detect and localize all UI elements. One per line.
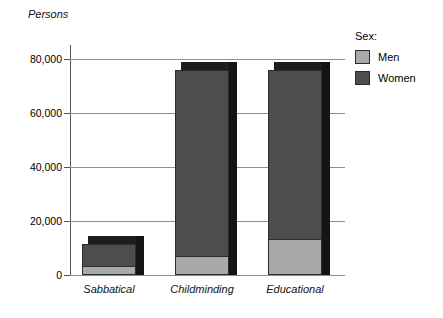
bar-top-face — [88, 236, 142, 244]
bar-childminding[interactable] — [175, 70, 229, 275]
legend-item-men[interactable]: Men — [355, 50, 441, 64]
y-tick — [64, 275, 70, 276]
y-tick-label: 80,000 — [30, 53, 62, 65]
x-axis-label-educational: Educational — [266, 283, 324, 295]
bar-segment-men[interactable] — [82, 266, 136, 275]
bar-chart: Persons 80,000 60,000 40,000 20,000 0 — [0, 0, 443, 318]
bar-side-face — [136, 236, 144, 275]
x-axis-label-childminding: Childminding — [170, 283, 234, 295]
bar-side-face — [322, 62, 330, 275]
x-axis-label-sabbatical: Sabbatical — [83, 283, 134, 295]
legend: Sex: Men Women — [355, 30, 441, 92]
y-axis-tick-labels: 80,000 60,000 40,000 20,000 0 — [0, 0, 62, 318]
x-axis-line — [70, 275, 345, 276]
bar-segment-women[interactable] — [175, 70, 229, 257]
bar-stack — [82, 244, 136, 275]
y-tick-label: 40,000 — [30, 161, 62, 173]
bar-sabbatical[interactable] — [82, 244, 136, 275]
bar-top-face — [181, 62, 235, 70]
bar-segment-men[interactable] — [268, 239, 322, 275]
gridline-80000 — [70, 59, 345, 60]
bar-side-face — [229, 62, 237, 275]
bar-educational[interactable] — [268, 70, 322, 275]
legend-swatch-men — [355, 50, 370, 64]
bar-top-face — [274, 62, 328, 70]
legend-swatch-women — [355, 71, 370, 85]
y-tick-label: 0 — [56, 269, 62, 281]
legend-label-women: Women — [378, 72, 416, 84]
legend-label-men: Men — [378, 51, 399, 63]
bar-segment-women[interactable] — [268, 70, 322, 240]
plot-area — [70, 45, 345, 275]
bar-segment-women[interactable] — [82, 244, 136, 267]
bar-segment-men[interactable] — [175, 256, 229, 275]
y-tick-label: 20,000 — [30, 215, 62, 227]
bar-stack — [268, 70, 322, 275]
legend-title: Sex: — [355, 30, 441, 42]
y-tick-label: 60,000 — [30, 107, 62, 119]
bar-stack — [175, 70, 229, 275]
legend-item-women[interactable]: Women — [355, 71, 441, 85]
